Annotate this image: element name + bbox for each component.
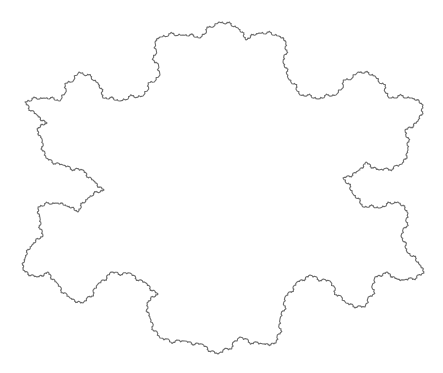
fractal-outline-path (22, 22, 424, 354)
fractal-canvas (0, 0, 443, 373)
